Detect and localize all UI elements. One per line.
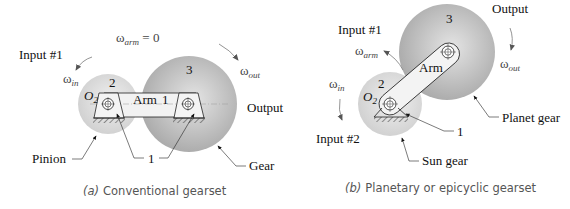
omega-in-arrow	[76, 57, 92, 70]
sun-gear-label: Sun gear	[422, 153, 469, 168]
output-label: Output	[492, 1, 529, 16]
omega-arm-label: ωarm	[355, 43, 379, 60]
caption-b: (b)Planetary or epicyclic gearset	[345, 181, 537, 195]
arm-label: Arm	[133, 92, 157, 107]
omega-out-label: ωout	[240, 63, 261, 80]
omega-in-label: ωin	[63, 71, 79, 88]
gear-3-number: 3	[446, 11, 453, 26]
gear-3-number: 3	[186, 62, 193, 77]
omega-arm-label: ωarm = 0	[116, 30, 159, 47]
planet-gear-label: Planet gear	[502, 110, 561, 125]
gearset-diagram: 2 3 O2 Arm 1 ωarm = 0 Input #1 ωin ωout …	[0, 0, 570, 209]
omega-in-label: ωin	[329, 76, 345, 93]
gear-2-number: 2	[109, 75, 116, 90]
pinion-label: Pinion	[32, 151, 66, 166]
omega-out-arrow	[219, 44, 238, 60]
ground-label: 1	[148, 151, 155, 166]
arm-label: Arm	[419, 60, 443, 75]
caption-a: (a)Conventional gearset	[83, 184, 227, 198]
figure-a-conventional-gearset: 2 3 O2 Arm 1 ωarm = 0 Input #1 ωin ωout …	[19, 30, 284, 198]
output-label: Output	[247, 100, 284, 115]
gear-label: Gear	[249, 158, 275, 173]
ground-label: 1	[457, 124, 464, 139]
input-1-label: Input #1	[338, 22, 382, 37]
omega-out-arrow	[510, 28, 512, 50]
figure-b-planetary-gearset: 3 2 O2 Arm Input #1 ωarm ωin Input #2 Ou…	[316, 1, 561, 195]
input-2-label: Input #2	[316, 131, 360, 146]
input-1-label: Input #1	[19, 47, 63, 62]
omega-out-label: ωout	[500, 56, 521, 73]
omega-in-arrow	[339, 99, 342, 120]
gear-2-number: 2	[378, 76, 385, 91]
arm-link-number: 1	[162, 92, 169, 107]
